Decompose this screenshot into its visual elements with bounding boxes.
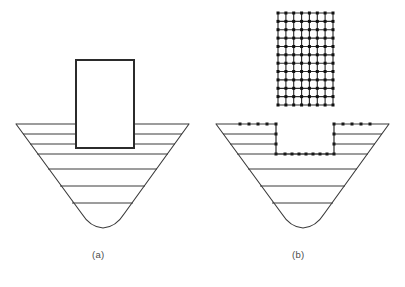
panel-b-caption: (b)	[292, 249, 305, 260]
figure-container: (a) (b)	[0, 0, 405, 287]
embedded-block-a	[76, 60, 134, 148]
technical-line-drawing	[0, 0, 405, 287]
panel-a-caption: (a)	[92, 249, 105, 260]
